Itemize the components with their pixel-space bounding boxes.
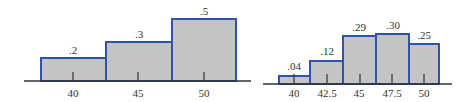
x-tick-label: 50 (419, 87, 431, 99)
value-label: .30 (386, 19, 400, 31)
chart-left: .2 .3 .5 40 45 50 (24, 5, 251, 99)
x-tick-label: 50 (199, 87, 211, 99)
x-tick-label: 42.5 (317, 87, 337, 99)
value-label: .2 (69, 44, 77, 56)
x-tick-label: 47.5 (382, 87, 402, 99)
value-label: .25 (417, 29, 431, 41)
bar-left-3 (172, 19, 236, 81)
x-tick-label: 40 (289, 87, 301, 99)
histograms: .2 .3 .5 40 45 50 .04 .12 .29 .30 .25 40… (0, 0, 470, 102)
value-label: .29 (352, 21, 366, 33)
bar-left-2 (106, 42, 172, 81)
value-label: .3 (135, 28, 144, 40)
value-label: .12 (320, 45, 334, 57)
value-label: .5 (200, 5, 209, 17)
x-tick-label: 45 (354, 87, 366, 99)
x-tick-label: 40 (68, 87, 80, 99)
value-label: .04 (287, 60, 301, 72)
chart-right: .04 .12 .29 .30 .25 40 42.5 45 47.5 50 (263, 19, 452, 99)
x-tick-label: 45 (133, 87, 145, 99)
